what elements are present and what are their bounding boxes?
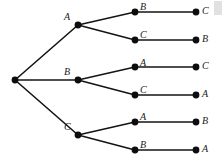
node-label-l1-b: B — [64, 67, 70, 77]
tree-node — [75, 22, 82, 29]
tree-diagram: ABCBCACABCBCABA — [0, 0, 224, 163]
tree-node — [193, 147, 200, 154]
node-label-l2-4: C — [140, 85, 147, 95]
node-label-l2-5: A — [140, 112, 146, 122]
tree-edge — [78, 80, 135, 95]
node-label-l2-2: C — [140, 30, 147, 40]
tree-edge — [78, 122, 135, 135]
tree-node — [193, 64, 200, 71]
tree-node — [132, 64, 139, 71]
tree-node — [132, 119, 139, 126]
tree-node-root — [12, 77, 19, 84]
node-label-l2-3: A — [140, 58, 146, 68]
tree-node — [75, 132, 82, 139]
node-label-l2-6: B — [140, 140, 146, 150]
tree-edge — [78, 12, 135, 25]
node-label-l3-3: C — [202, 61, 209, 71]
tree-node — [132, 37, 139, 44]
tree-node — [193, 9, 200, 16]
tree-canvas — [0, 0, 224, 163]
node-label-l3-4: A — [202, 89, 208, 99]
node-label-l3-2: B — [202, 34, 208, 44]
node-label-l3-5: B — [202, 116, 208, 126]
node-label-l3-1: C — [202, 6, 209, 16]
tree-edge — [78, 25, 135, 40]
edge-layer — [15, 12, 196, 150]
node-label-l1-c: C — [64, 122, 71, 132]
tree-node — [193, 92, 200, 99]
tree-edge — [78, 135, 135, 150]
tree-node — [193, 37, 200, 44]
scan-artifact — [214, 1, 222, 15]
tree-node — [132, 9, 139, 16]
node-label-l2-1: B — [140, 2, 146, 12]
tree-node — [75, 77, 82, 84]
tree-edge — [78, 67, 135, 80]
tree-node — [132, 92, 139, 99]
tree-node — [132, 147, 139, 154]
node-label-l3-6: A — [202, 144, 208, 154]
node-label-l1-a: A — [64, 12, 70, 22]
node-layer — [12, 9, 200, 154]
tree-node — [193, 119, 200, 126]
